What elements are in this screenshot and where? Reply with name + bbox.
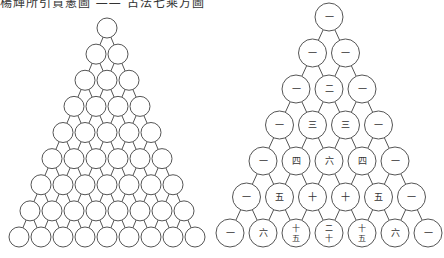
node-label: 二 bbox=[325, 224, 333, 233]
node-label: 一 bbox=[424, 228, 433, 238]
number-node: 三 bbox=[299, 111, 327, 139]
node-label: 十 bbox=[308, 191, 317, 202]
empty-node-circle bbox=[86, 201, 106, 221]
number-node: 一 bbox=[398, 183, 426, 211]
node-label: 五 bbox=[374, 192, 383, 202]
empty-node-circle bbox=[97, 18, 117, 38]
pascal-triangle-diagrams: 一一一一二一一三三一一四六四一一五十十五一一六十五二十十五六一 bbox=[0, 0, 444, 258]
node-label: 六 bbox=[391, 227, 400, 238]
empty-node-circle bbox=[108, 44, 128, 64]
empty-node-circle bbox=[108, 201, 128, 221]
empty-node-circle bbox=[97, 227, 117, 247]
number-node: 六 bbox=[249, 219, 277, 247]
empty-node-circle bbox=[119, 227, 139, 247]
number-node: 二十 bbox=[315, 219, 343, 247]
empty-node-circle bbox=[53, 123, 73, 143]
empty-node-circle bbox=[108, 149, 128, 169]
number-node: 一 bbox=[348, 75, 376, 103]
number-node: 一 bbox=[282, 75, 310, 103]
number-node: 一 bbox=[315, 3, 343, 31]
node-label: 十 bbox=[358, 223, 366, 233]
number-node: 四 bbox=[348, 147, 376, 175]
node-label: 一 bbox=[341, 48, 350, 58]
empty-triangle-diagram bbox=[9, 18, 205, 247]
node-label: 五 bbox=[292, 234, 300, 243]
empty-node-circle bbox=[20, 201, 40, 221]
number-node: 六 bbox=[381, 219, 409, 247]
empty-node-circle bbox=[42, 149, 62, 169]
empty-node-circle bbox=[86, 96, 106, 116]
empty-node-circle bbox=[130, 149, 150, 169]
node-label: 一 bbox=[325, 12, 334, 22]
empty-node-circle bbox=[163, 175, 183, 195]
number-node: 二 bbox=[315, 75, 343, 103]
empty-node-circle bbox=[64, 201, 84, 221]
node-label: 五 bbox=[275, 192, 284, 202]
empty-node-circle bbox=[152, 201, 172, 221]
empty-node-circle bbox=[97, 70, 117, 90]
empty-node-circle bbox=[86, 149, 106, 169]
number-node: 一 bbox=[249, 147, 277, 175]
empty-node-circle bbox=[97, 123, 117, 143]
empty-node-circle bbox=[130, 201, 150, 221]
number-node: 六 bbox=[315, 147, 343, 175]
empty-node-circle bbox=[163, 227, 183, 247]
empty-node-circle bbox=[119, 70, 139, 90]
number-node: 十五 bbox=[348, 219, 376, 247]
number-node: 一 bbox=[414, 219, 442, 247]
node-label: 三 bbox=[308, 120, 317, 130]
empty-node-circle bbox=[152, 149, 172, 169]
number-node: 三 bbox=[332, 111, 360, 139]
empty-node-circle bbox=[141, 227, 161, 247]
number-node: 五 bbox=[266, 183, 294, 211]
empty-node-circle bbox=[53, 175, 73, 195]
empty-node-circle bbox=[31, 175, 51, 195]
node-label: 一 bbox=[374, 120, 383, 130]
empty-node-circle bbox=[9, 227, 29, 247]
node-label: 五 bbox=[358, 234, 366, 243]
empty-node-circle bbox=[75, 70, 95, 90]
empty-node-circle bbox=[64, 96, 84, 116]
number-node: 一 bbox=[299, 39, 327, 67]
node-label: 一 bbox=[242, 192, 251, 202]
node-label: 一 bbox=[292, 84, 301, 94]
number-node: 十 bbox=[332, 183, 360, 211]
number-node: 一 bbox=[216, 219, 244, 247]
node-label: 二 bbox=[325, 84, 334, 94]
node-label: 六 bbox=[259, 227, 268, 238]
number-node: 十 bbox=[299, 183, 327, 211]
empty-node-circle bbox=[174, 201, 194, 221]
node-label: 一 bbox=[226, 228, 235, 238]
node-label: 一 bbox=[308, 48, 317, 58]
empty-node-circle bbox=[130, 96, 150, 116]
empty-node-circle bbox=[75, 175, 95, 195]
number-node: 一 bbox=[381, 147, 409, 175]
numbered-triangle-diagram: 一一一一二一一三三一一四六四一一五十十五一一六十五二十十五六一 bbox=[216, 3, 442, 247]
node-label: 一 bbox=[391, 156, 400, 166]
number-node: 一 bbox=[365, 111, 393, 139]
node-label: 十 bbox=[325, 233, 333, 243]
node-label: 一 bbox=[275, 120, 284, 130]
number-node: 一 bbox=[233, 183, 261, 211]
node-label: 十 bbox=[292, 223, 300, 233]
empty-node-circle bbox=[141, 123, 161, 143]
empty-node-circle bbox=[75, 123, 95, 143]
empty-node-circle bbox=[108, 96, 128, 116]
node-label: 四 bbox=[358, 156, 367, 166]
empty-node-circle bbox=[75, 227, 95, 247]
number-node: 四 bbox=[282, 147, 310, 175]
empty-node-circle bbox=[97, 175, 117, 195]
node-label: 三 bbox=[341, 120, 350, 130]
node-label: 十 bbox=[341, 191, 350, 202]
empty-node-circle bbox=[42, 201, 62, 221]
empty-node-circle bbox=[31, 227, 51, 247]
empty-node-circle bbox=[119, 175, 139, 195]
number-node: 十五 bbox=[282, 219, 310, 247]
node-label: 一 bbox=[259, 156, 268, 166]
empty-node-circle bbox=[53, 227, 73, 247]
node-label: 一 bbox=[407, 192, 416, 202]
node-label: 六 bbox=[325, 155, 334, 166]
empty-node-circle bbox=[141, 175, 161, 195]
empty-node-circle bbox=[119, 123, 139, 143]
empty-node-circle bbox=[86, 44, 106, 64]
